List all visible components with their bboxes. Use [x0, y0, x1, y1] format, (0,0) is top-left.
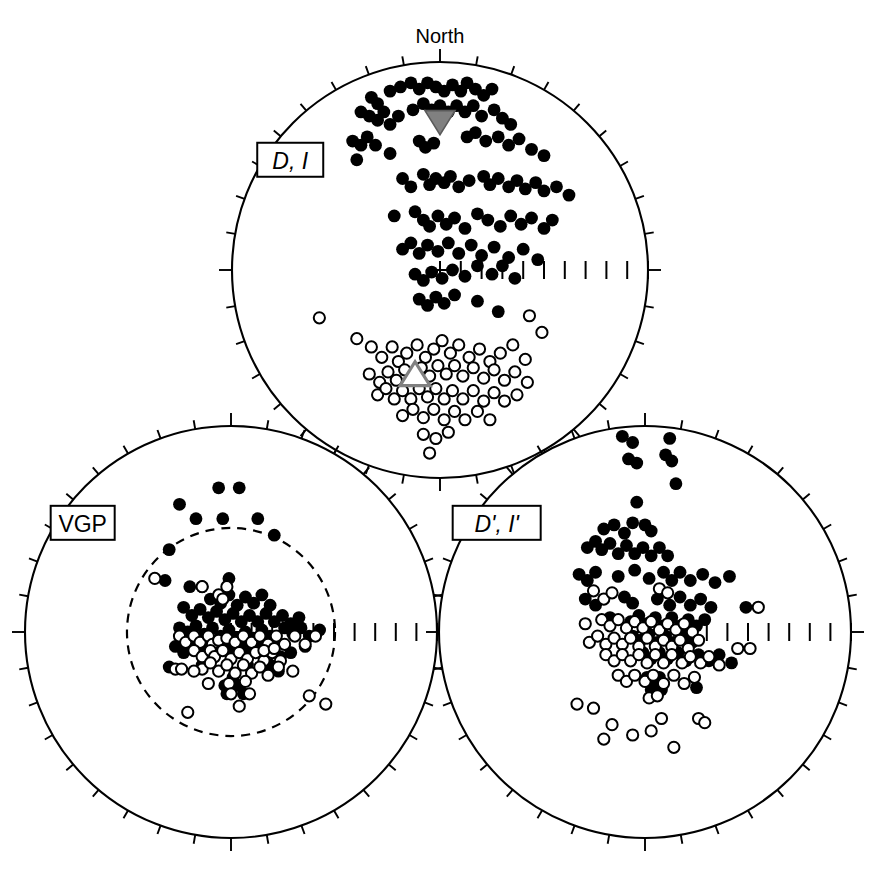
data-point-open [588, 585, 599, 596]
azimuth-tick [645, 306, 654, 308]
azimuth-tick [544, 82, 549, 90]
azimuth-tick [236, 341, 244, 344]
data-point-filled [459, 222, 472, 235]
data-point-filled [709, 576, 722, 589]
azimuth-tick [363, 790, 369, 797]
data-point-open [507, 339, 518, 350]
data-point-filled [525, 212, 538, 225]
data-point-filled [438, 297, 451, 310]
data-point-open [478, 373, 489, 384]
data-point-filled [488, 241, 501, 254]
data-point-open [405, 393, 416, 404]
data-point-open [488, 387, 499, 398]
data-point-open [273, 661, 284, 672]
azimuth-tick [480, 764, 487, 770]
azimuth-tick [301, 104, 307, 111]
panel-di: D, I [219, 49, 661, 491]
azimuth-tick [157, 826, 160, 834]
data-point-filled [630, 457, 643, 470]
azimuth-tick [93, 467, 99, 474]
data-point-open [397, 410, 408, 421]
data-point-open [428, 404, 439, 415]
data-point-open [478, 395, 489, 406]
data-point-filled [492, 172, 505, 185]
data-point-filled [513, 133, 526, 146]
data-point-filled [643, 572, 656, 585]
data-point-open [197, 581, 208, 592]
data-point-open [511, 389, 522, 400]
data-point-filled [626, 597, 639, 610]
data-point-filled [183, 580, 196, 593]
panel-label-text-dprime: D', I' [474, 511, 520, 537]
data-point-open [457, 370, 468, 381]
data-point-filled [384, 147, 397, 160]
data-point-filled [630, 496, 643, 509]
azimuth-tick [459, 735, 467, 740]
data-point-filled [674, 566, 687, 579]
data-point-open [652, 690, 663, 701]
data-point-filled [212, 481, 225, 494]
data-point-open [648, 670, 659, 681]
azimuth-tick [571, 826, 574, 834]
data-point-filled [604, 537, 617, 550]
data-point-open [703, 651, 714, 662]
data-point-open [262, 670, 273, 681]
azimuth-tick [29, 702, 37, 705]
data-point-open [439, 414, 450, 425]
data-point-open [658, 678, 669, 689]
data-point-open [430, 433, 441, 444]
data-point-open [376, 352, 387, 363]
azimuth-tick [803, 764, 810, 770]
azimuth-tick [620, 374, 628, 379]
azimuth-tick [389, 764, 396, 770]
panel-dprime: D', I' [426, 413, 864, 851]
data-point-open [149, 573, 160, 584]
azimuth-tick [748, 810, 753, 818]
data-point-open [314, 312, 325, 323]
data-point-filled [504, 118, 517, 131]
azimuth-tick [226, 306, 235, 308]
data-point-open [629, 670, 640, 681]
data-point-open [606, 719, 617, 730]
azimuth-tick [93, 790, 99, 797]
data-point-open [401, 348, 412, 359]
data-point-open [449, 406, 460, 417]
azimuth-tick [194, 835, 196, 844]
data-point-open [366, 341, 377, 352]
azimuth-tick [635, 196, 643, 199]
azimuth-tick [476, 475, 478, 484]
data-point-filled [550, 180, 563, 193]
azimuth-tick [443, 558, 451, 561]
data-point-filled [469, 126, 482, 139]
data-point-open [424, 447, 435, 458]
data-point-filled [517, 243, 530, 256]
data-point-open [646, 725, 657, 736]
data-point-open [662, 587, 673, 598]
data-point-open [269, 643, 280, 654]
data-point-open [744, 643, 755, 654]
azimuth-tick [274, 404, 281, 410]
azimuth-tick [45, 735, 53, 740]
data-point-open [182, 707, 193, 718]
data-point-open [606, 587, 617, 598]
data-point-filled [268, 529, 281, 542]
panel-vgp: VGP [12, 413, 450, 851]
data-point-open [412, 339, 423, 350]
data-point-open [443, 427, 454, 438]
azimuth-tick [332, 82, 337, 90]
data-point-filled [608, 518, 621, 531]
data-point-open [714, 659, 725, 670]
data-point-filled [446, 264, 459, 277]
data-point-open [387, 341, 398, 352]
data-point-open [225, 688, 236, 699]
data-point-open [436, 335, 447, 346]
azimuth-tick [402, 475, 404, 484]
data-point-open [380, 383, 391, 394]
data-point-filled [696, 568, 709, 581]
azimuth-tick [848, 668, 857, 670]
data-point-filled [452, 247, 465, 260]
data-point-open [484, 414, 495, 425]
azimuth-tick [301, 826, 304, 834]
azimuth-tick [252, 374, 260, 379]
data-point-open [300, 639, 311, 650]
